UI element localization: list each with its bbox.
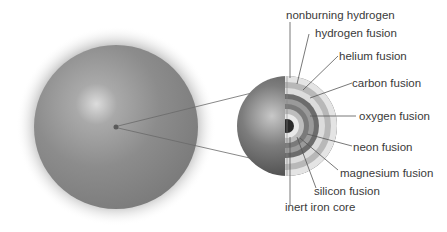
label-silicon-fusion: silicon fusion [314, 185, 380, 197]
label-inert-iron-core: inert iron core [285, 201, 355, 213]
core-dot [114, 125, 119, 130]
cutaway-star [237, 76, 337, 176]
large-star [16, 26, 216, 226]
label-hydrogen-fusion: hydrogen fusion [315, 27, 397, 39]
label-oxygen-fusion: oxygen fusion [359, 110, 430, 122]
label-carbon-fusion: carbon fusion [352, 77, 421, 89]
diagram-stage: nonburning hydrogen hydrogen fusion heli… [0, 0, 447, 232]
label-neon-fusion: neon fusion [353, 141, 412, 153]
label-nonburning-hydrogen: nonburning hydrogen [286, 9, 395, 21]
label-magnesium-fusion: magnesium fusion [340, 167, 433, 179]
label-helium-fusion: helium fusion [339, 50, 407, 62]
